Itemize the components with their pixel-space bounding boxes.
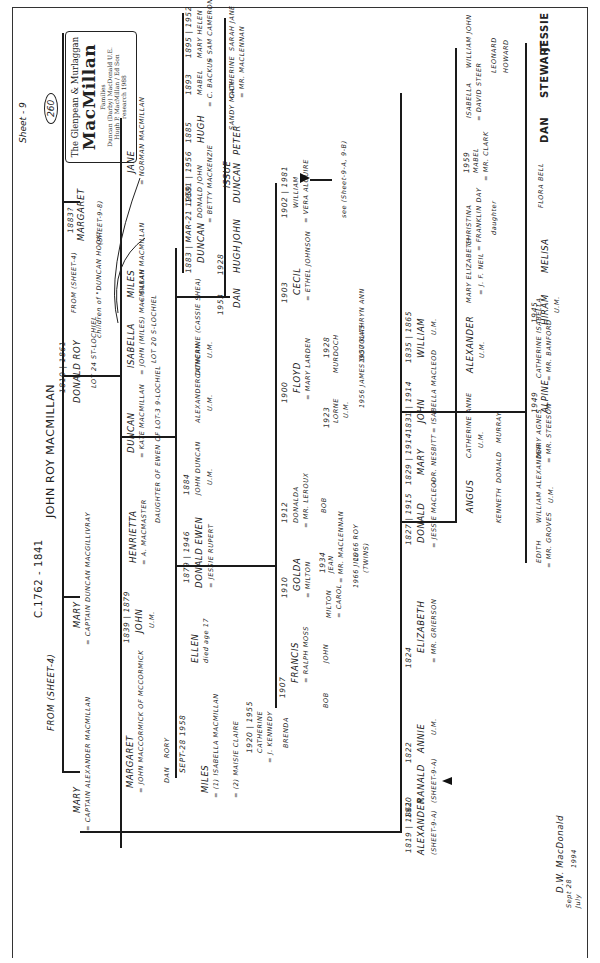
annotation-arrows [0, 0, 600, 963]
genealogy-chart-page: Sheet - 9 260 The Glenpean & Murlaggan M… [0, 0, 600, 963]
